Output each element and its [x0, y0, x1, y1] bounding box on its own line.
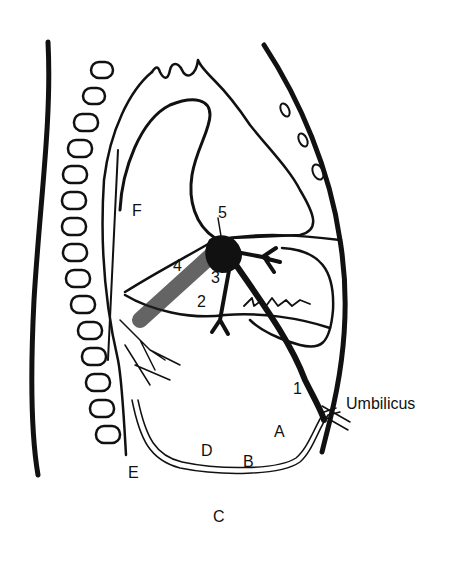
umbilical-vein: [234, 262, 324, 420]
label-2: 2: [197, 294, 206, 310]
dorsal-branches: [120, 320, 180, 385]
label-5: 5: [218, 205, 227, 221]
label-4: 4: [173, 258, 182, 274]
gut-tube-inner: [108, 150, 118, 360]
label-D: D: [201, 443, 213, 459]
label-C: C: [213, 509, 225, 525]
gut-coil: [244, 298, 310, 306]
back-body-wall: [32, 42, 49, 475]
vertebrae: [62, 62, 120, 443]
label-A: A: [274, 424, 285, 440]
yolk-sac-loop-inner: [138, 400, 336, 468]
yolk-sac-loop-outer: [132, 400, 340, 473]
liver-right: [250, 248, 333, 347]
label-umbilicus: Umbilicus: [346, 396, 415, 412]
label-E: E: [128, 465, 139, 481]
branch-right: [236, 248, 280, 272]
label-3: 3: [211, 270, 220, 286]
label-1: 1: [293, 381, 302, 397]
label-F: F: [132, 203, 142, 219]
label-B: B: [243, 454, 254, 470]
anatomical-diagram: [0, 0, 459, 561]
